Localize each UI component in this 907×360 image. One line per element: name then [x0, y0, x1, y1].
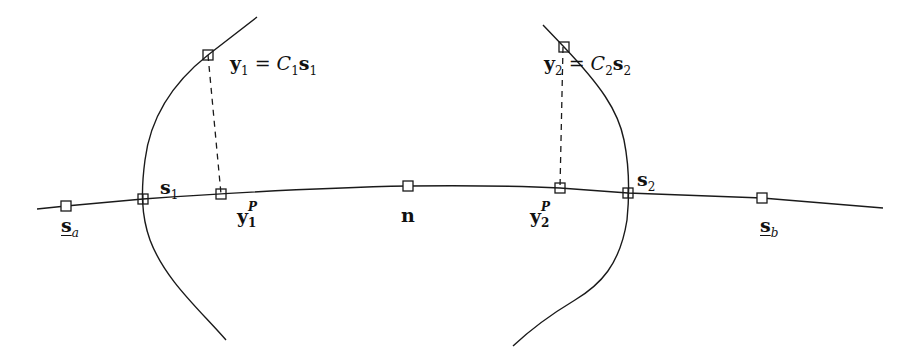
label-y1-projection: yP1 [237, 207, 258, 226]
label-y2-projection: yP2 [530, 207, 551, 226]
label-s-a: sa [61, 216, 79, 239]
label-s-1: s1 [160, 178, 178, 201]
diagram-canvas: sa s1 yP1 n yP2 s2 sb y1=C1s1 y2=C2s2 [0, 0, 907, 360]
marker-n [403, 181, 413, 191]
label-equation-y2: y2=C2s2 [544, 54, 631, 77]
projection-dashed-line-1 [208, 55, 221, 194]
marker-sa [61, 201, 71, 211]
label-n: n [401, 206, 415, 225]
label-s-2: s2 [637, 170, 655, 193]
diagram-svg [0, 0, 907, 360]
label-s-b: sb [760, 216, 778, 239]
marker-sb [757, 193, 767, 203]
label-equation-y1: y1=C1s1 [230, 54, 317, 77]
